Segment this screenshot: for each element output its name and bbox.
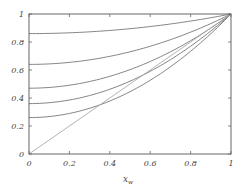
series-line-diagonal [29,14,231,154]
y-tick-label: 0.6 [11,66,24,75]
series-line-curve-3 [29,14,231,88]
series-line-curve-5 [29,14,231,118]
x-tick-label: 0.8 [184,159,197,168]
series-line-curve-1 [29,14,231,34]
series-line-curve-4 [29,14,231,104]
y-tick-label: 1 [19,10,24,19]
x-tick-label: 0.4 [103,159,116,168]
y-tick-label: 0.8 [11,38,24,47]
chart: 00.20.40.60.81 00.20.40.60.81 xw [0,0,244,191]
x-tick-label: 0 [26,159,31,168]
chart-lines [29,14,231,154]
x-tick-labels: 00.20.40.60.81 [26,159,233,168]
x-tick-label: 0.6 [144,159,157,168]
y-tick-label: 0.2 [11,122,24,131]
x-axis-label: xw [123,174,134,185]
y-tick-labels: 00.20.40.60.81 [11,10,24,159]
y-tick-label: 0 [19,150,24,159]
y-tick-label: 0.4 [11,94,24,103]
x-tick-label: 0.2 [63,159,76,168]
x-tick-label: 1 [228,159,233,168]
